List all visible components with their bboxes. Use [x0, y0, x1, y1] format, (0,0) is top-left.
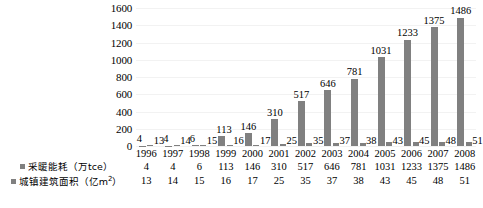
bar-series2-wrap: 16 — [226, 8, 233, 146]
bar-group: 64637 — [319, 8, 346, 146]
table-year-cell: 1999 — [213, 147, 240, 160]
bar-series2[interactable] — [360, 143, 366, 146]
y-axis-tick: 1600 — [96, 3, 132, 14]
bar-series1-wrap: 4 — [165, 8, 172, 146]
bar-series2[interactable] — [466, 142, 472, 146]
bar-series1[interactable] — [457, 18, 464, 146]
bar-series2[interactable] — [147, 145, 153, 146]
bar-series2[interactable] — [174, 145, 180, 146]
bar-series1[interactable] — [298, 101, 305, 146]
bar-series2[interactable] — [306, 143, 312, 146]
legend-item-series2[interactable]: 城镇建筑面积（亿m2） — [0, 173, 133, 188]
bar-group: 148651 — [451, 8, 478, 146]
bar-series2-wrap: 25 — [279, 8, 286, 146]
table-cell-series2: 35 — [292, 173, 319, 188]
y-axis-tick: 1400 — [96, 20, 132, 31]
chart-plot-area: 16001400120010008006004002000 4134146151… — [0, 0, 478, 158]
bar-series2-wrap: 51 — [465, 8, 472, 146]
bar-group: 137548 — [425, 8, 452, 146]
table-cell-series1: 517 — [292, 160, 319, 173]
table-row-series2: 城镇建筑面积（亿m2）13141516172535373843454851 — [0, 173, 478, 188]
bar-series1[interactable] — [271, 119, 278, 146]
legend-label-superscript: 2 — [108, 175, 112, 183]
table-year-cell: 1997 — [160, 147, 187, 160]
bar-series1[interactable] — [431, 27, 438, 146]
bar-series1-wrap: 1031 — [378, 8, 385, 146]
bar-series1-wrap: 113 — [218, 8, 225, 146]
table-year-cell: 2001 — [266, 147, 293, 160]
table-cell-series2: 25 — [266, 173, 293, 188]
bar-series2[interactable] — [227, 145, 233, 146]
bar-series1[interactable] — [351, 79, 358, 146]
bar-series2[interactable] — [200, 145, 206, 146]
table-year-cell: 2008 — [451, 147, 478, 160]
table-year-cell: 2004 — [345, 147, 372, 160]
table-year-cell: 2005 — [372, 147, 399, 160]
bar-series2-wrap: 38 — [359, 8, 366, 146]
bar-series1[interactable] — [218, 136, 225, 146]
y-axis-tick: 1000 — [96, 55, 132, 66]
table-corner-cell — [0, 147, 133, 160]
bar-series2-wrap: 35 — [306, 8, 313, 146]
bar-series2[interactable] — [439, 142, 445, 146]
y-axis-tick: 600 — [96, 89, 132, 100]
table-year-cell: 2002 — [292, 147, 319, 160]
table-cell-series2: 51 — [451, 173, 478, 188]
bar-series-container: 4134146151131614617310255173564637781381… — [133, 8, 478, 146]
table-cell-series1: 1375 — [425, 160, 452, 173]
bar-series2[interactable] — [386, 142, 392, 146]
bar-group: 414 — [160, 8, 187, 146]
bar-group: 51735 — [292, 8, 319, 146]
bar-series2-wrap: 14 — [173, 8, 180, 146]
bar-group: 123345 — [398, 8, 425, 146]
bar-series1-value-label: 6 — [190, 134, 195, 145]
table-cell-series2: 15 — [186, 173, 213, 188]
table-cell-series1: 113 — [213, 160, 240, 173]
bar-group: 78138 — [345, 8, 372, 146]
legend-item-series1[interactable]: 采暖能耗（万tce） — [0, 160, 133, 173]
bar-series1[interactable] — [192, 145, 199, 146]
bar-series1-wrap: 646 — [324, 8, 331, 146]
table-cell-series2: 16 — [213, 173, 240, 188]
bar-series2[interactable] — [413, 142, 419, 146]
bar-series1[interactable] — [378, 57, 385, 146]
table-cell-series1: 4 — [133, 160, 160, 173]
y-axis-tick: 800 — [96, 72, 132, 83]
bar-series1-value-label: 4 — [137, 134, 142, 145]
data-table: 1996199719981999200020012002200320042005… — [0, 147, 478, 208]
bar-group: 31025 — [266, 8, 293, 146]
bar-series2-wrap: 48 — [439, 8, 446, 146]
bar-series1-wrap: 1375 — [431, 8, 438, 146]
bar-series2-wrap: 37 — [332, 8, 339, 146]
table-cell-series1: 1233 — [398, 160, 425, 173]
table-cell-series1: 1031 — [372, 160, 399, 173]
table-cell-series2: 14 — [160, 173, 187, 188]
bar-series2-wrap: 15 — [200, 8, 207, 146]
bar-series1-value-label: 4 — [163, 134, 168, 145]
legend-label-series1: 采暖能耗（万tce） — [28, 161, 113, 172]
legend-swatch-icon — [20, 164, 25, 169]
y-axis: 16001400120010008006004002000 — [96, 8, 132, 146]
bar-series1-wrap: 1233 — [404, 8, 411, 146]
bar-series1[interactable] — [245, 133, 252, 146]
bar-series1[interactable] — [404, 40, 411, 146]
bar-series1[interactable] — [324, 90, 331, 146]
bar-series2[interactable] — [280, 144, 286, 146]
table-cell-series2: 17 — [239, 173, 266, 188]
table-cell-series2: 45 — [398, 173, 425, 188]
table-cell-series1: 1486 — [451, 160, 478, 173]
y-axis-tick: 400 — [96, 107, 132, 118]
bar-group: 103143 — [372, 8, 399, 146]
table-year-cell: 2006 — [398, 147, 425, 160]
bar-series2-wrap: 43 — [386, 8, 393, 146]
bar-series1-wrap: 517 — [298, 8, 305, 146]
bar-series1-wrap: 4 — [139, 8, 146, 146]
bar-series1-wrap: 146 — [245, 8, 252, 146]
bar-series2[interactable] — [253, 145, 259, 146]
bar-series1-wrap: 310 — [271, 8, 278, 146]
table-row-years: 1996199719981999200020012002200320042005… — [0, 147, 478, 160]
bar-series2[interactable] — [333, 143, 339, 146]
table-year-cell: 2003 — [319, 147, 346, 160]
table-cell-series2: 48 — [425, 173, 452, 188]
